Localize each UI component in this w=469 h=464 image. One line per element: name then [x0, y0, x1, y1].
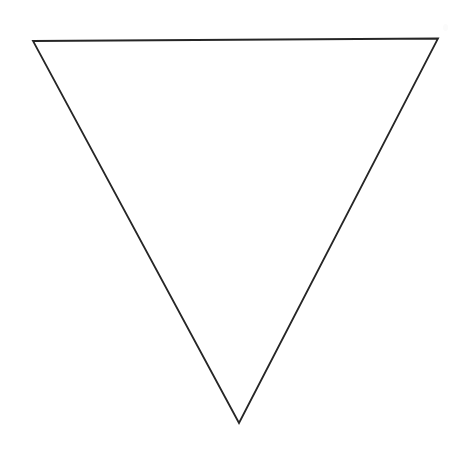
inverted-triangle-outline	[33, 39, 438, 424]
figure-canvas	[0, 0, 469, 464]
triangle-figure	[0, 0, 469, 464]
